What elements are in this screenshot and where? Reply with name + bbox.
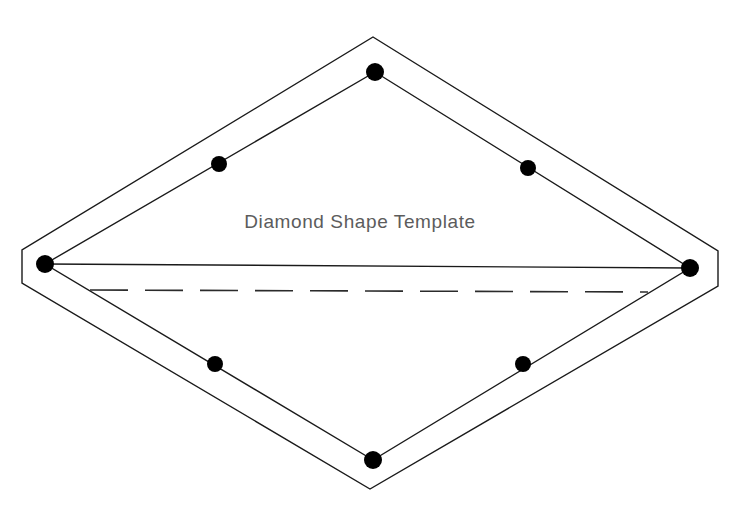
dot-bottom-vertex	[364, 451, 382, 469]
page-title: Diamond Shape Template	[244, 211, 476, 232]
dot-lower-right-edge	[515, 356, 531, 372]
dot-right-vertex	[681, 259, 699, 277]
dashed-guide-line	[90, 290, 648, 292]
dot-upper-left-edge	[211, 156, 227, 172]
diagram-canvas: Diamond Shape Template	[0, 0, 734, 523]
dot-lower-left-edge	[207, 356, 223, 372]
outer-octagonal-border	[22, 37, 718, 489]
dot-left-vertex	[36, 255, 54, 273]
horizontal-solid-axis	[45, 264, 690, 268]
dot-upper-right-edge	[520, 160, 536, 176]
diamond-template-diagram: Diamond Shape Template	[0, 0, 734, 523]
dot-top-vertex	[366, 63, 384, 81]
